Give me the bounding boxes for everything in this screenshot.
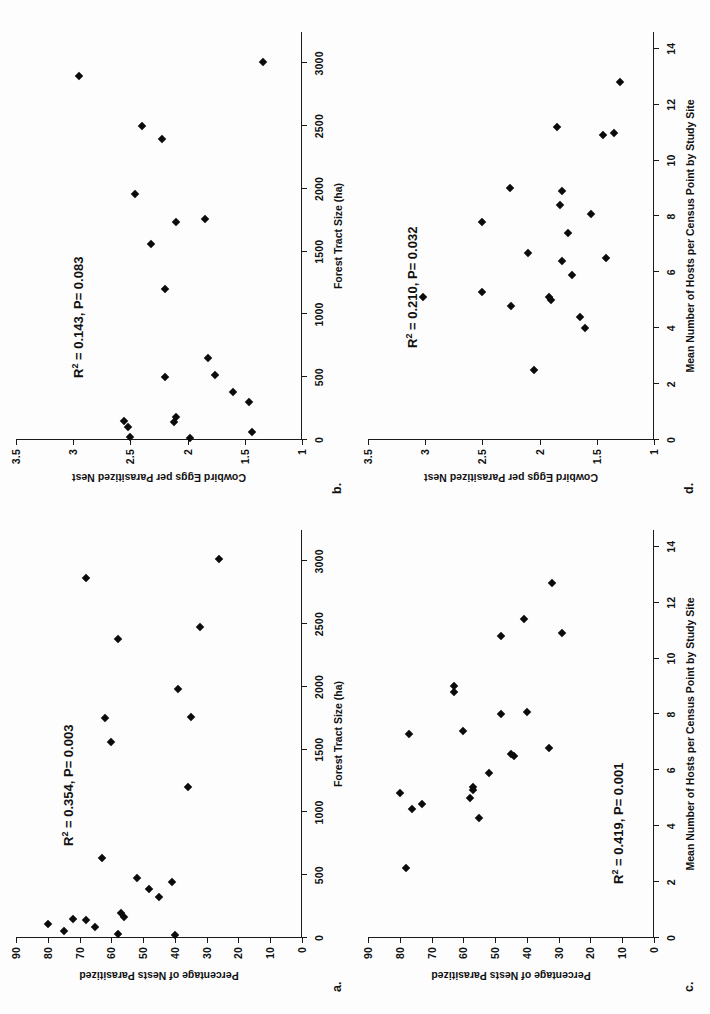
data-point-b-3: [124, 423, 132, 431]
x-tick-label-b-4: 2000: [313, 177, 325, 201]
x-tick-b-2: [302, 313, 307, 314]
data-point-a-19: [113, 635, 121, 643]
y-tick-label-a-8: 80: [42, 947, 54, 959]
y-tick-c-3: [559, 938, 560, 943]
data-point-d-19: [610, 128, 618, 136]
y-tick-b-0: [302, 440, 303, 445]
data-point-d-3: [507, 302, 515, 310]
y-tick-b-3: [130, 440, 131, 445]
x-tick-label-d-2: 4: [665, 325, 677, 331]
data-point-b-8: [229, 388, 237, 396]
y-axis-title-b: Cowbird Eggs per Parasitized Nest: [72, 472, 246, 484]
x-tick-c-2: [654, 825, 659, 826]
x-axis-line-d: [653, 32, 654, 440]
y-tick-label-d-1: 1.5: [591, 449, 603, 464]
x-axis-title-d: Mean Number of Hosts per Census Point by…: [684, 32, 696, 440]
panel-d: 0246810121411.522.533.5Mean Number of Ho…: [360, 18, 700, 498]
x-tick-d-5: [654, 160, 659, 161]
y-tick-c-9: [368, 938, 369, 943]
data-point-a-16: [101, 714, 109, 722]
x-tick-label-a-5: 2500: [313, 612, 325, 636]
y-tick-a-9: [16, 938, 17, 943]
y-axis-title-a: Percentage of Nests Parasitized: [79, 970, 238, 982]
y-tick-label-a-2: 20: [232, 947, 244, 959]
x-tick-label-c-0: 0: [665, 935, 677, 941]
data-point-a-6: [69, 915, 77, 923]
y-tick-b-4: [73, 440, 74, 445]
x-tick-label-a-0: 0: [313, 935, 325, 941]
x-tick-label-c-2: 4: [665, 823, 677, 829]
data-point-c-12: [405, 730, 413, 738]
x-tick-a-3: [302, 749, 307, 750]
data-point-a-17: [187, 713, 195, 721]
x-tick-label-c-6: 12: [665, 597, 677, 609]
y-tick-label-a-6: 60: [105, 947, 117, 959]
y-tick-label-c-1: 10: [616, 947, 628, 959]
y-tick-label-a-1: 10: [264, 947, 276, 959]
x-axis-line-a: [301, 530, 302, 938]
y-tick-label-c-7: 70: [426, 947, 438, 959]
y-tick-label-d-3: 2.5: [476, 449, 488, 464]
data-point-b-2: [247, 428, 255, 436]
data-point-c-13: [459, 727, 467, 735]
data-point-c-20: [519, 615, 527, 623]
y-tick-c-0: [654, 938, 655, 943]
x-tick-d-3: [654, 271, 659, 272]
data-point-d-1: [581, 324, 589, 332]
x-axis-title-b: Forest Tract Size (ha): [332, 32, 344, 440]
data-point-c-8: [485, 769, 493, 777]
y-tick-d-5: [368, 440, 369, 445]
x-tick-label-a-1: 500: [313, 866, 325, 884]
figure-page: 0500100015002000250030000102030405060708…: [0, 0, 710, 1014]
y-tick-label-b-2: 2: [182, 449, 194, 455]
data-point-d-7: [478, 288, 486, 296]
x-tick-d-7: [654, 48, 659, 49]
x-tick-label-a-4: 2000: [313, 675, 325, 699]
y-tick-c-8: [400, 938, 401, 943]
data-point-c-4: [465, 794, 473, 802]
data-point-c-1: [475, 814, 483, 822]
y-axis-line-d: [368, 439, 654, 440]
y-tick-label-d-2: 2: [534, 449, 546, 455]
y-tick-label-b-5: 3.5: [10, 449, 22, 464]
x-tick-c-3: [654, 769, 659, 770]
y-tick-label-c-6: 60: [457, 947, 469, 959]
stat-annotation-a: R2 = 0.354, P= 0.003: [60, 725, 76, 846]
y-tick-a-8: [48, 938, 49, 943]
data-point-d-13: [478, 218, 486, 226]
y-tick-label-a-4: 40: [169, 947, 181, 959]
x-tick-d-4: [654, 215, 659, 216]
x-tick-a-5: [302, 623, 307, 624]
data-point-d-14: [587, 209, 595, 217]
y-tick-label-a-0: 0: [296, 947, 308, 953]
x-tick-b-3: [302, 251, 307, 252]
y-tick-c-1: [622, 938, 623, 943]
x-tick-c-7: [654, 546, 659, 547]
x-tick-label-b-3: 1500: [313, 240, 325, 264]
stat-annotation-c: R2 = 0.419, P= 0.001: [610, 763, 626, 884]
y-tick-label-c-3: 30: [553, 947, 565, 959]
data-point-d-11: [524, 249, 532, 257]
x-tick-label-d-3: 6: [665, 269, 677, 275]
y-tick-label-a-3: 30: [201, 947, 213, 959]
y-axis-line-b: [16, 439, 302, 440]
data-point-a-5: [82, 916, 90, 924]
data-point-b-16: [131, 190, 139, 198]
data-point-a-9: [155, 892, 163, 900]
data-point-d-17: [506, 184, 514, 192]
x-tick-label-b-2: 1000: [313, 302, 325, 326]
x-tick-label-a-3: 1500: [313, 738, 325, 762]
y-tick-label-d-5: 3.5: [362, 449, 374, 464]
x-tick-b-6: [302, 62, 307, 63]
y-tick-d-4: [425, 440, 426, 445]
data-point-a-2: [59, 927, 67, 935]
y-tick-a-7: [80, 938, 81, 943]
x-tick-a-1: [302, 874, 307, 875]
y-tick-label-c-5: 50: [489, 947, 501, 959]
data-point-b-14: [172, 217, 180, 225]
data-point-b-12: [160, 285, 168, 293]
y-axis-line-a: [16, 937, 302, 938]
x-axis-line-c: [653, 530, 654, 938]
plot-area-b: 05001000150020002500300011.522.533.5Fore…: [16, 32, 302, 440]
y-tick-label-a-7: 70: [74, 947, 86, 959]
